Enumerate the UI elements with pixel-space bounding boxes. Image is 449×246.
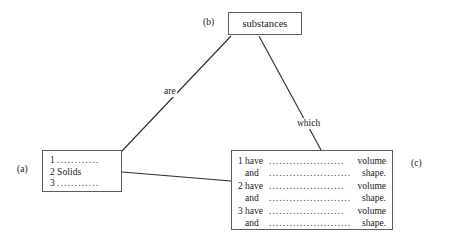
- property-line: and .......................... shape.: [232, 167, 392, 179]
- edge-substances-to-properties: [259, 36, 321, 150]
- edge-label-are: are: [163, 86, 177, 97]
- property-group: 3 have ........................ volume a…: [232, 205, 392, 230]
- list-item-value: Solids: [57, 167, 81, 179]
- node-substance-list[interactable]: 1 ............ 2 Solids 3 ............: [42, 150, 122, 192]
- list-item-number: 2: [43, 167, 57, 179]
- node-ref-label-a: (a): [17, 164, 28, 175]
- property-verb: and: [245, 217, 269, 229]
- property-line: and .......................... shape.: [232, 192, 392, 204]
- property-blank: ........................: [269, 205, 345, 217]
- list-item: 2 Solids: [43, 167, 121, 179]
- diagram-canvas: substances (b) 1 ............ 2 Solids 3…: [0, 0, 449, 246]
- list-item-number: 3: [43, 178, 57, 190]
- property-verb: and: [245, 192, 269, 204]
- property-line: 1 have ........................ volume: [232, 155, 392, 167]
- node-ref-label-b: (b): [203, 17, 214, 28]
- property-noun: shape.: [350, 167, 392, 179]
- property-verb: have: [245, 155, 269, 167]
- property-group: 2 have ........................ volume a…: [232, 180, 392, 205]
- edge-label-which: which: [296, 118, 321, 129]
- node-substances-label: substances: [229, 13, 301, 34]
- node-substances[interactable]: substances: [228, 12, 302, 35]
- property-noun: volume: [345, 180, 392, 192]
- property-line: 3 have ........................ volume: [232, 205, 392, 217]
- property-blank: ........................: [269, 155, 345, 167]
- node-ref-label-c: (c): [411, 158, 422, 169]
- property-number: 2: [232, 180, 245, 192]
- property-blank: ..........................: [269, 217, 350, 229]
- property-verb: have: [245, 180, 269, 192]
- property-number: 1: [232, 155, 245, 167]
- property-noun: volume: [345, 205, 392, 217]
- property-blank: ..........................: [269, 167, 350, 179]
- property-group: 1 have ........................ volume a…: [232, 155, 392, 180]
- node-properties-list[interactable]: 1 have ........................ volume a…: [231, 150, 393, 230]
- property-blank: ........................: [269, 180, 345, 192]
- property-line: 2 have ........................ volume: [232, 180, 392, 192]
- list-item: 3 ............: [43, 178, 121, 190]
- property-noun: shape.: [350, 192, 392, 204]
- list-item: 1 ............: [43, 155, 121, 167]
- property-verb: have: [245, 205, 269, 217]
- list-item-blank: ............: [57, 178, 99, 190]
- edge-list-to-properties: [122, 172, 231, 181]
- list-item-blank: ............: [57, 155, 99, 167]
- property-line: and .......................... shape.: [232, 217, 392, 229]
- property-noun: shape.: [350, 217, 392, 229]
- property-number: 3: [232, 205, 245, 217]
- property-noun: volume: [345, 155, 392, 167]
- property-blank: ..........................: [269, 192, 350, 204]
- property-verb: and: [245, 167, 269, 179]
- list-item-number: 1: [43, 155, 57, 167]
